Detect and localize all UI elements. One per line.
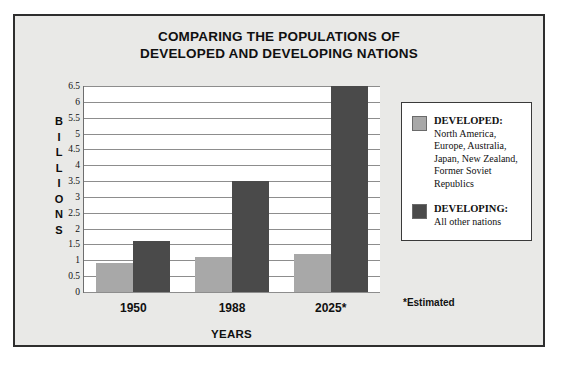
y-tick-label-6: 6	[75, 97, 80, 107]
chart-title-line-2: DEVELOPED AND DEVELOPING NATIONS	[15, 45, 543, 62]
bar-group-1988: 1988	[195, 86, 269, 292]
bar-developing-1988	[232, 181, 269, 292]
footnote-estimated: *Estimated	[403, 297, 455, 308]
chart-legend: DEVELOPED: North America, Europe, Austra…	[401, 102, 532, 241]
y-axis-title: BILLIONS	[51, 114, 67, 238]
bar-developing-1950	[133, 241, 170, 292]
bar-developed-1950	[96, 263, 133, 292]
y-axis-title-letter-3: L	[51, 161, 67, 177]
y-axis-title-letter-1: I	[51, 130, 67, 146]
legend-description-developing: All other nations	[434, 216, 508, 229]
y-tick-label-1.5: 1.5	[68, 239, 80, 249]
y-tick-label-0: 0	[75, 287, 80, 297]
bar-developing-2025	[331, 86, 368, 292]
y-axis-title-letter-4: I	[51, 176, 67, 192]
chart-title: COMPARING THE POPULATIONS OF DEVELOPED A…	[15, 28, 543, 62]
y-tick-label-5: 5	[75, 129, 80, 139]
chart-figure: COMPARING THE POPULATIONS OF DEVELOPED A…	[13, 14, 545, 347]
y-tick-label-1: 1	[75, 255, 80, 265]
y-tick-label-6.5: 6.5	[68, 81, 80, 91]
bar-group-1950: 1950	[96, 86, 170, 292]
y-tick-label-3.5: 3.5	[68, 176, 80, 186]
legend-heading-developed: DEVELOPED:	[434, 115, 522, 128]
x-tick-label-1950: 1950	[96, 301, 170, 315]
chart-title-line-1: COMPARING THE POPULATIONS OF	[15, 28, 543, 45]
y-tick-label-2: 2	[75, 224, 80, 234]
x-tick-label-2025: 2025*	[294, 301, 368, 315]
bar-developed-1988	[195, 257, 232, 292]
y-axis-title-letter-0: B	[51, 114, 67, 130]
y-tick-label-2.5: 2.5	[68, 208, 80, 218]
x-tick-label-1988: 1988	[195, 301, 269, 315]
legend-description-developed: North America, Europe, Australia, Japan,…	[434, 128, 522, 191]
bar-group-2025: 2025*	[294, 86, 368, 292]
legend-item-developed: DEVELOPED: North America, Europe, Austra…	[412, 115, 522, 190]
x-axis-title: YEARS	[83, 328, 380, 340]
y-tick-label-5.5: 5.5	[68, 113, 80, 123]
y-tick-label-0.5: 0.5	[68, 271, 80, 281]
y-axis-title-letter-5: O	[51, 192, 67, 208]
gridline-0	[84, 292, 380, 293]
legend-text-developed: DEVELOPED: North America, Europe, Austra…	[434, 115, 522, 190]
y-tick-label-4.5: 4.5	[68, 144, 80, 154]
y-tick-label-3: 3	[75, 192, 80, 202]
legend-heading-developing: DEVELOPING:	[434, 203, 508, 216]
legend-item-developing: DEVELOPING: All other nations	[412, 203, 522, 228]
y-axis-title-letter-7: S	[51, 223, 67, 239]
y-axis-title-letter-6: N	[51, 207, 67, 223]
legend-swatch-developed	[412, 116, 427, 131]
legend-text-developing: DEVELOPING: All other nations	[434, 203, 508, 228]
bar-developed-2025	[294, 254, 331, 292]
plot-area: 00.511.522.533.544.555.566.5195019882025…	[83, 86, 380, 293]
y-axis-title-letter-2: L	[51, 145, 67, 161]
y-tick-label-4: 4	[75, 160, 80, 170]
legend-swatch-developing	[412, 204, 427, 219]
